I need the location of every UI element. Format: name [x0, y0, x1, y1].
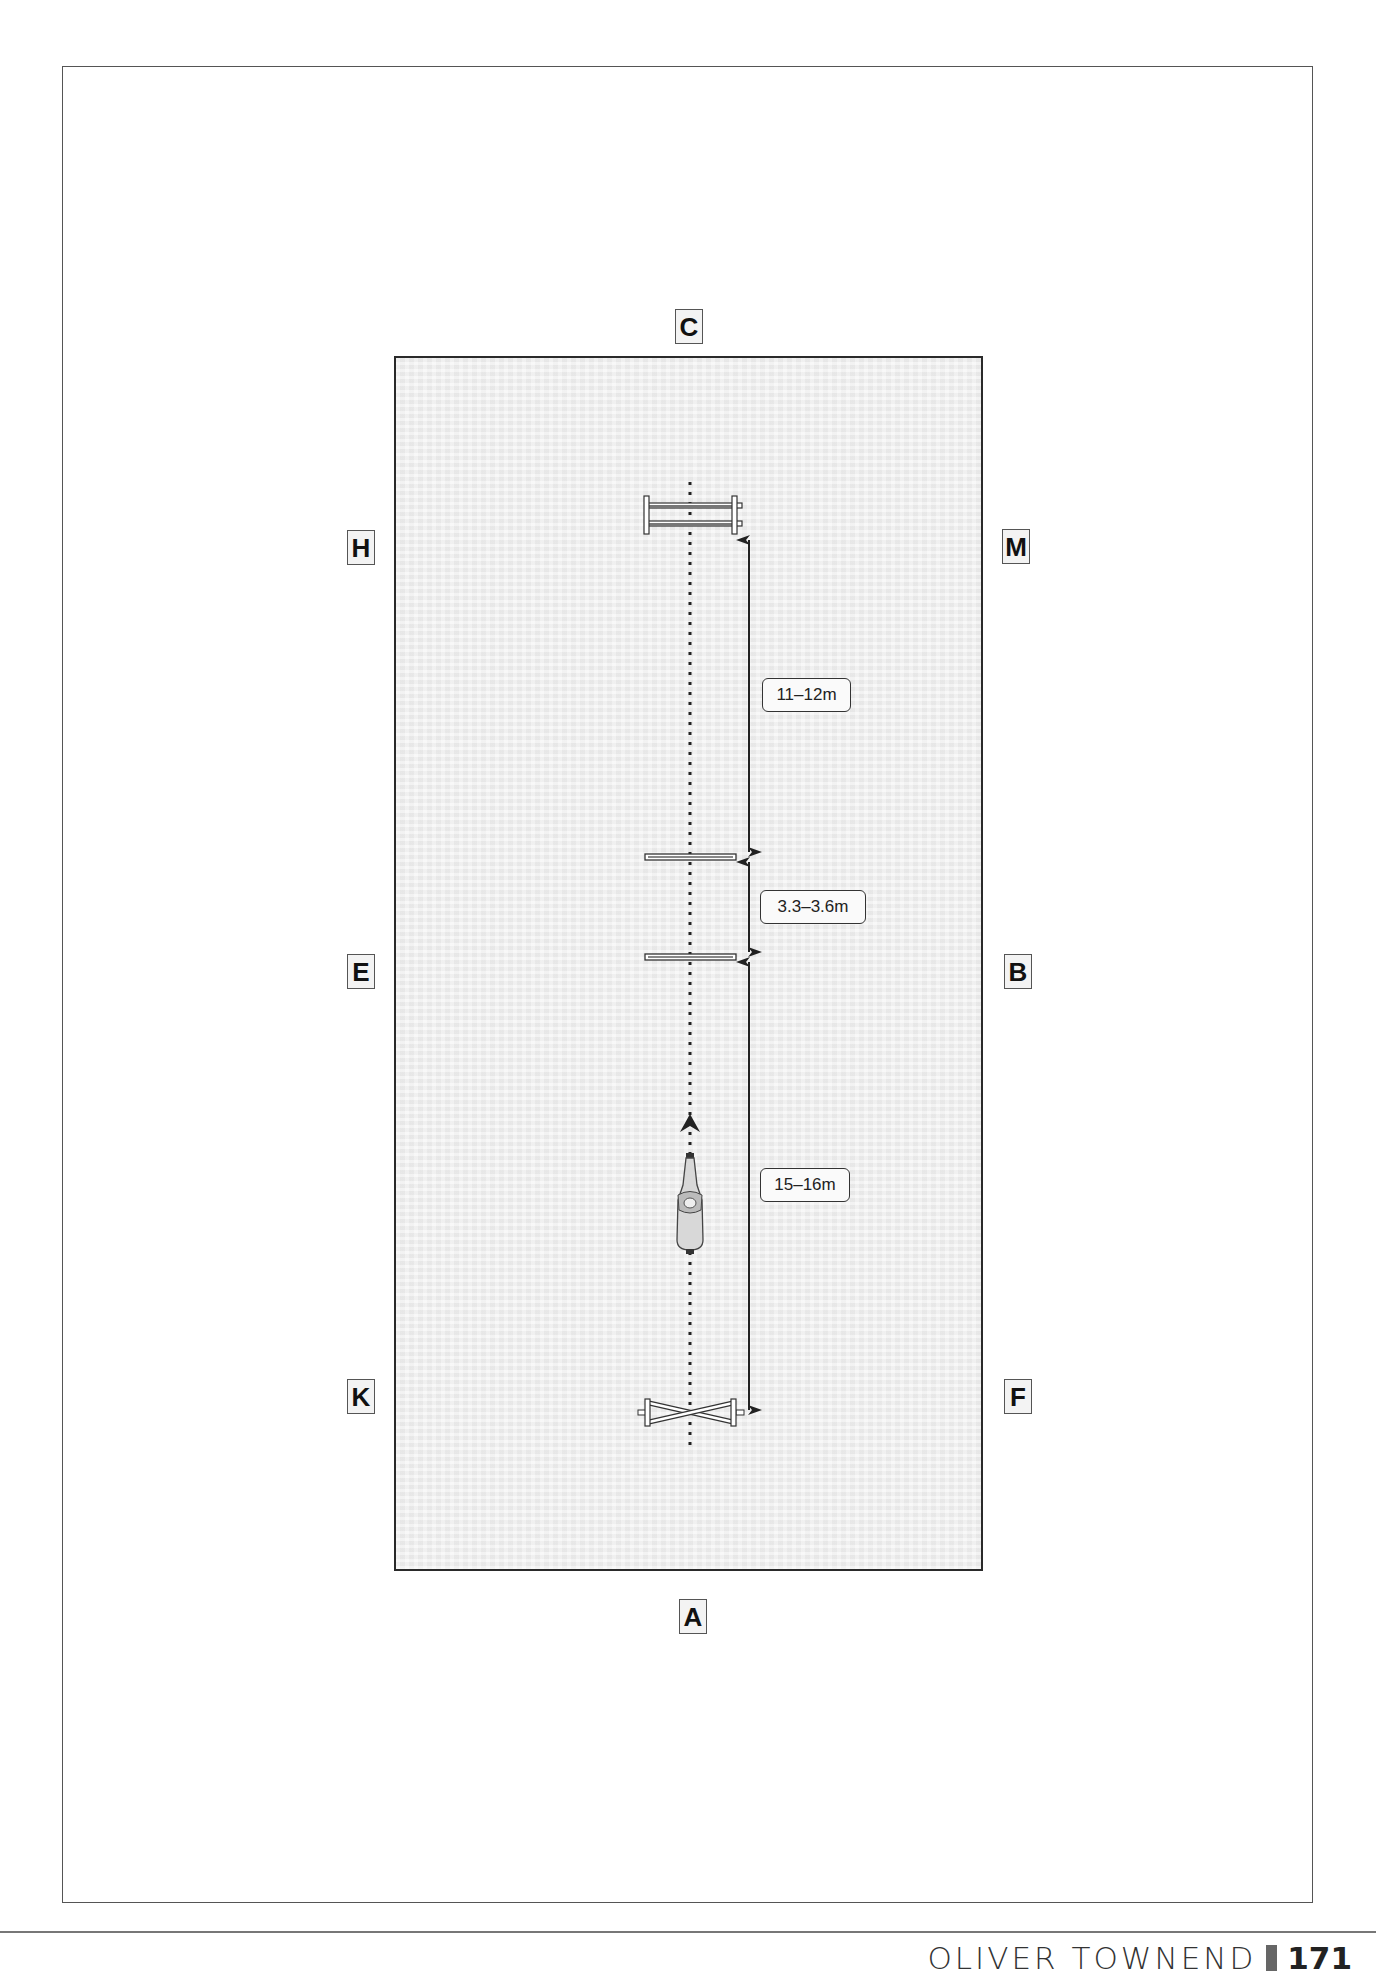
direction-arrow-icon — [680, 1114, 700, 1132]
distance-label-15-16m: 15–16m — [760, 1168, 850, 1202]
distance-label-11-12m: 11–12m — [762, 678, 851, 712]
page-number: 171 — [1287, 1940, 1352, 1976]
footer-separator-block — [1266, 1945, 1277, 1971]
oxer-jump-icon — [644, 496, 742, 534]
ground-pole-2-icon — [645, 954, 736, 960]
diagram-overlay — [0, 0, 1376, 1977]
distance-label-3-3-3-6m: 3.3–3.6m — [760, 890, 866, 924]
page-footer: OLIVER TOWNEND 171 — [927, 1940, 1352, 1976]
ground-pole-1-icon — [645, 854, 736, 860]
horse-rider-icon — [677, 1153, 703, 1254]
footer-author: OLIVER TOWNEND — [927, 1940, 1256, 1976]
footer-rule — [0, 1931, 1376, 1933]
